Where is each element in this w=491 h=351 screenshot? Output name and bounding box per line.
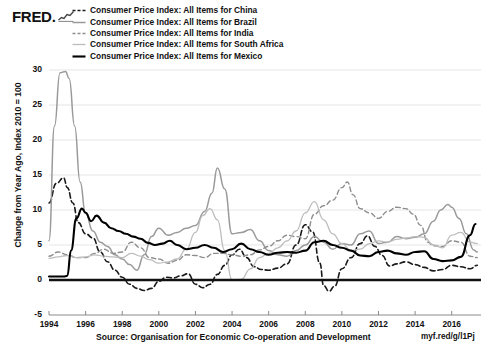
chart-plot-svg <box>0 0 491 351</box>
source-note: Source: Organisation for Economic Co-ope… <box>96 332 371 342</box>
series-line-2 <box>49 182 477 263</box>
series-line-1 <box>49 71 477 270</box>
fred-chart-figure: FRED. Consumer Price Index: All Items fo… <box>0 0 491 351</box>
series-line-0 <box>49 178 477 291</box>
plot-area: Change from Year Ago, Index 2010 = 100 3… <box>0 0 491 351</box>
permalink-url[interactable]: myf.red/g/l1Pj <box>421 332 475 341</box>
